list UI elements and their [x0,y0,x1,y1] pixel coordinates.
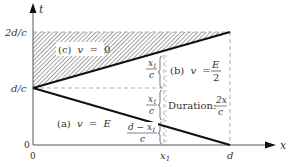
x-axis-label: x [280,139,287,152]
region-b-num: E [211,59,220,70]
brace-middle-den: c [149,106,154,116]
x-axis-arrow-icon [265,142,276,149]
region-a-label: (a) v = E [57,118,111,129]
brace-upper-icon [158,56,162,88]
tick-2d-over-c: 2d/c [4,27,27,38]
duration-num: 2x [215,95,227,105]
t-axis-label: t [39,3,44,16]
region-b-den: 2 [213,72,219,83]
t-axis-arrow-icon [30,3,37,13]
brace-middle-num: x1 [148,94,157,105]
origin-t-label: 0 [24,140,30,150]
origin-x-label: 0 [30,151,36,161]
brace-lower-num: d − x1 [128,122,156,133]
brace-middle-icon [158,90,162,120]
region-b-label: (b) v = [170,65,211,76]
tick-d: d [227,150,233,161]
duration-den: c [218,107,223,117]
tick-d-over-c: d/c [11,83,27,94]
brace-upper-den: c [149,70,154,80]
brace-lower-den: c [140,134,145,144]
brace-upper-num: x1 [148,58,157,69]
duration-label: Duration: [168,100,216,111]
tick-x1: x1 [160,150,170,163]
spacetime-diagram: t x 0 0 2d/c d/c x1 d (c) v = 0 (b) v = … [0,0,299,167]
